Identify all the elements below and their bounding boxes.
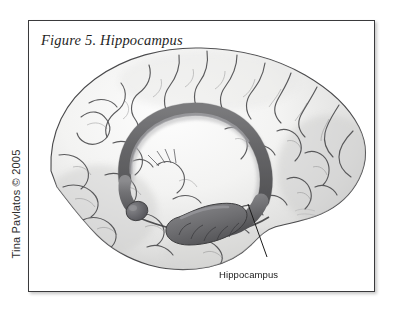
figure-plate: Tina Pavlatos © 2005 Figure 5. Hippocamp…	[0, 0, 393, 316]
copyright-notice: Tina Pavlatos © 2005	[8, 144, 24, 264]
brain-illustration	[29, 21, 376, 293]
figure-border-frame: Figure 5. Hippocampus	[28, 20, 375, 292]
hippocampus-label: Hippocampus	[219, 269, 278, 280]
cerebral-cortex	[41, 48, 376, 279]
